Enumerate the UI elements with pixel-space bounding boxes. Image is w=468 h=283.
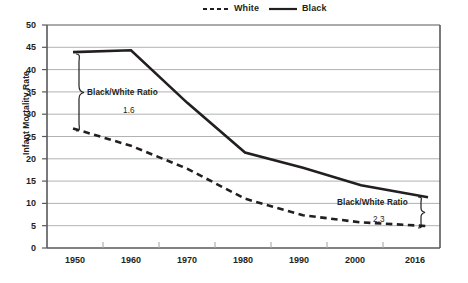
y-tick-45: 45 [10, 43, 36, 52]
annotation-ratio-1950-value: 1.6 [123, 107, 135, 115]
x-tick-1950: 1950 [52, 256, 98, 265]
y-tick-5: 5 [10, 221, 36, 230]
x-tick-1960: 1960 [108, 256, 154, 265]
y-tick-15: 15 [10, 177, 36, 186]
infant-mortality-chart: White Black Infant Mortality Rate [0, 0, 468, 283]
annotation-ratio-2016-label: Black/White Ratio [337, 199, 408, 207]
x-tick-1970: 1970 [164, 256, 210, 265]
annotation-ratio-1950-label: Black/White Ratio [87, 89, 158, 97]
x-tick-1980: 1980 [220, 256, 266, 265]
x-tick-2000: 2000 [332, 256, 378, 265]
y-tick-50: 50 [10, 21, 36, 30]
x-tick-1990: 1990 [276, 256, 322, 265]
y-tick-30: 30 [10, 110, 36, 119]
y-tick-10: 10 [10, 199, 36, 208]
y-tick-0: 0 [10, 244, 36, 253]
annotation-ratio-2016-value: 2.3 [373, 216, 385, 224]
y-tick-40: 40 [10, 65, 36, 74]
y-tick-35: 35 [10, 87, 36, 96]
x-tick-2016: 2016 [392, 256, 438, 265]
y-tick-25: 25 [10, 132, 36, 141]
y-axis-labels: 50 45 40 35 30 25 20 15 10 5 0 [0, 0, 468, 283]
y-tick-20: 20 [10, 154, 36, 163]
